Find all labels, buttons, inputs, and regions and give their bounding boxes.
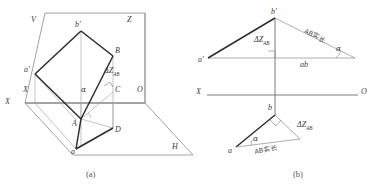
angle-arc-alpha-a xyxy=(88,113,91,118)
label-point-D: D xyxy=(115,126,121,134)
horizontal-plane-outline xyxy=(25,103,193,155)
panel-a-geometry xyxy=(25,13,193,155)
bold-aprime-bprime xyxy=(35,31,81,74)
caption-panel-b: (b) xyxy=(293,170,303,179)
lower-angle-arc-alpha xyxy=(251,140,252,145)
construction-plane-edge-left xyxy=(35,103,76,149)
label-angle-alpha-lower: α xyxy=(253,135,258,143)
label-point-C: C xyxy=(115,86,120,94)
label-point-b-prime-a: b′ xyxy=(75,21,81,29)
label-origin-O-a: O xyxy=(137,86,143,94)
figure-canvas xyxy=(0,0,373,190)
caption-panel-a: (a) xyxy=(86,170,95,179)
label-point-a-prime-a: a′ xyxy=(24,66,30,74)
label-axis-O-b: O xyxy=(361,88,367,96)
label-z-axis: Z xyxy=(127,16,131,24)
label-vertical-plane-V: V xyxy=(31,16,36,24)
bold-a-D xyxy=(76,128,113,149)
label-point-b-lower: b xyxy=(268,104,272,112)
label-x-axis-a: X xyxy=(23,86,28,94)
label-horizontal-plane-H: H xyxy=(172,143,178,151)
label-angle-alpha-upper: α xyxy=(336,45,341,53)
label-point-a-lower: a xyxy=(71,148,75,156)
descriptive-geometry-figure: V Z b′ a′ B ΔZAB X X α C O A D a H (a) b… xyxy=(0,0,373,190)
label-angle-alpha-a: α xyxy=(81,86,86,94)
label-delta-z-lower: ΔZAB xyxy=(297,121,313,131)
right-angle-marker-C xyxy=(104,82,113,87)
bold-bprime-B xyxy=(81,31,113,56)
upper-right-angle-marker xyxy=(268,51,275,58)
label-delta-z-a: ΔZAB xyxy=(104,67,120,77)
label-point-a-b: a xyxy=(228,147,232,155)
label-point-B: B xyxy=(115,47,120,55)
label-delta-z-upper: ΔZAB xyxy=(254,36,270,46)
lower-right-angle-marker xyxy=(270,120,281,126)
panel-b-geometry xyxy=(207,18,358,147)
label-point-A: A xyxy=(72,120,77,128)
construction-A-C xyxy=(81,92,113,119)
construction-A-D xyxy=(81,119,113,128)
label-point-a-prime-b: a′ xyxy=(198,56,204,64)
label-base-ab: ab xyxy=(300,61,308,69)
bold-aprime-A xyxy=(35,74,81,119)
label-point-b-prime-b: b′ xyxy=(271,8,277,16)
label-x-axis-end-a: X xyxy=(5,98,10,106)
label-axis-X-b: X xyxy=(196,88,201,96)
